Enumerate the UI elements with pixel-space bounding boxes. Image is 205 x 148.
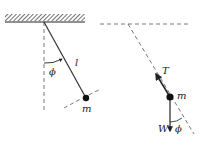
angle-label-fbd: ϕ [175,123,182,134]
left-pendulum: ϕ l m [5,14,101,114]
ceiling-hatch [5,14,85,21]
angle-arc-phi [44,59,62,63]
angle-arc-phi-fbd [170,118,182,122]
weight-label: W [158,123,169,134]
length-label: l [75,57,78,68]
free-body-diagram: T m W ϕ [100,24,194,134]
mass-point [166,93,173,100]
tension-arrow [156,74,170,97]
mass-label: m [82,103,91,114]
tension-label: T [162,65,170,76]
pendulum-rod [44,22,86,98]
rod-direction-dashed-line [128,24,194,134]
mass-bob [83,95,89,101]
mass-label-fbd: m [177,90,186,101]
angle-label: ϕ [49,66,56,77]
pendulum-diagram: ϕ l m T m W ϕ [0,0,205,148]
